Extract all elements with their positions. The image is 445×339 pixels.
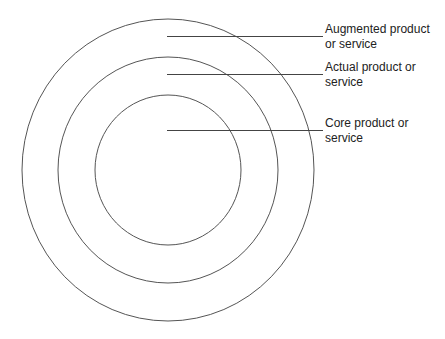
label-augmented-product: Augmented product or service xyxy=(325,22,443,52)
label-core-line1: Core product or xyxy=(325,116,443,131)
ring-actual xyxy=(58,57,278,283)
label-core-line2: service xyxy=(325,131,443,146)
label-core-product: Core product or service xyxy=(325,116,443,146)
label-augmented-line2: or service xyxy=(325,37,443,52)
label-augmented-line1: Augmented product xyxy=(325,22,443,37)
label-actual-product: Actual product or service xyxy=(325,60,443,90)
ring-core xyxy=(95,95,241,245)
label-actual-line1: Actual product or xyxy=(325,60,443,75)
label-actual-line2: service xyxy=(325,75,443,90)
ring-augmented xyxy=(22,19,314,321)
